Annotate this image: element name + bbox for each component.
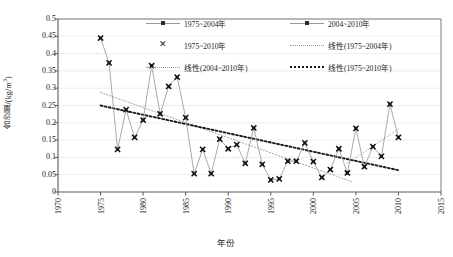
sediment-concentration-chart: 含沙量/(kg/m3) 00.050.10.150.20.250.30.350.… [0, 0, 453, 257]
legend-line-marker-icon [290, 19, 324, 28]
legend-dotted-line-icon [290, 41, 324, 50]
legend-label: 线性(1975~2004年) [328, 40, 392, 51]
legend-label: 1975~2010年 [184, 40, 226, 51]
legend-trend-1975-2010[interactable]: 线性(1975~2010年) [290, 62, 392, 73]
plot-area [0, 0, 453, 257]
legend-x-marker-icon: ✕ [146, 41, 180, 50]
legend-label: 线性(1975~2010年) [328, 62, 392, 73]
legend-1975-2010[interactable]: ✕1975~2010年 [146, 40, 226, 51]
legend-1975-2004[interactable]: 1975~2004年 [146, 18, 226, 29]
legend-dotted-line-icon [146, 63, 180, 72]
legend-trend-2004-2010[interactable]: 线性(2004~2010年) [146, 62, 248, 73]
legend-2004-2010[interactable]: 2004~2010年 [290, 18, 370, 29]
legend-label: 1975~2004年 [184, 18, 226, 29]
legend-line-marker-icon [146, 19, 180, 28]
legend-trend-1975-2004[interactable]: 线性(1975~2004年) [290, 40, 392, 51]
legend-dotted-bold-line-icon [290, 63, 324, 72]
legend-label: 线性(2004~2010年) [184, 62, 248, 73]
legend-label: 2004~2010年 [328, 18, 370, 29]
